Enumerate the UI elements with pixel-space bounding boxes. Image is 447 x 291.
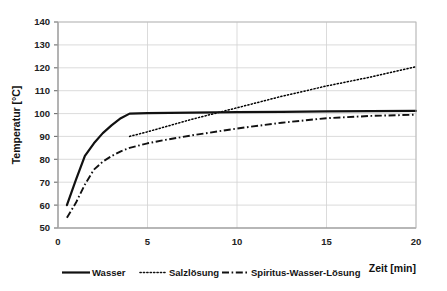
y-tick-label: 90 [39,131,50,142]
legend-label-wasser: Wasser [92,267,126,278]
x-tick-label: 15 [321,236,332,247]
y-tick-label: 110 [35,85,50,96]
chart-canvas: 140 130 120 110 100 90 80 70 60 50 0 5 1… [0,0,447,291]
y-tick-label: 50 [39,222,50,233]
y-tick-label: 140 [34,16,50,27]
y-tick-label: 100 [34,108,50,119]
legend-label-spiritus-wasser-loesung: Spiritus-Wasser-Lösung [251,267,361,278]
y-tick-label: 60 [39,200,50,211]
chart-legend: Wasser Salzlösung Spiritus-Wasser-Lösung [62,267,361,278]
temperature-time-chart: 140 130 120 110 100 90 80 70 60 50 0 5 1… [0,0,447,291]
x-tick-label: 20 [411,236,422,247]
legend-label-salzloesung: Salzlösung [169,267,219,278]
y-tick-label: 120 [34,62,50,73]
y-tick-marks [54,22,58,228]
x-tick-label: 10 [232,236,243,247]
x-tick-label: 0 [55,236,60,247]
y-tick-label: 70 [39,177,50,188]
y-axis-title: Temperatur [°C] [10,86,22,165]
x-tick-label: 5 [145,236,151,247]
x-axis-title: Zeit [min] [369,262,416,274]
y-tick-label: 130 [34,39,50,50]
y-tick-label: 80 [39,154,50,165]
